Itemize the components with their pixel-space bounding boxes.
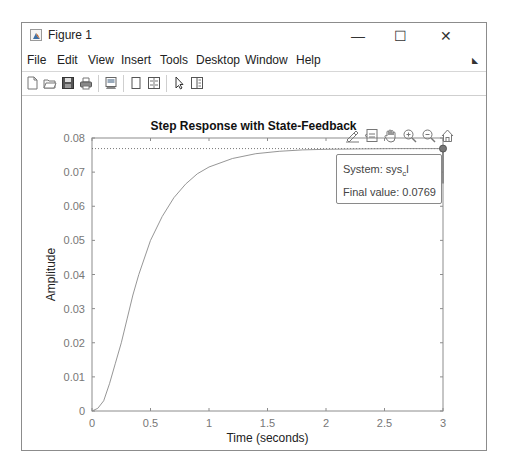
axes-toolbar <box>344 127 455 143</box>
menu-bar: File Edit View Insert Tools Desktop Wind… <box>22 49 486 72</box>
open-file-icon[interactable] <box>42 75 58 91</box>
close-button[interactable]: ✕ <box>428 25 464 47</box>
save-icon[interactable] <box>60 75 76 91</box>
x-tick-label: 1 <box>206 417 212 429</box>
y-tick-label: 0.06 <box>64 200 85 212</box>
edit-plot-pointer-icon[interactable] <box>171 75 187 91</box>
menu-tools[interactable]: Tools <box>160 53 188 67</box>
step-response-plot[interactable]: 00.511.522.5300.010.020.030.040.050.060.… <box>22 96 486 451</box>
zoom-out-icon[interactable] <box>420 127 436 143</box>
property-inspector-icon[interactable] <box>189 75 205 91</box>
x-tick-label: 2 <box>323 417 329 429</box>
toolbar-separator <box>166 75 167 92</box>
zoom-in-icon[interactable] <box>401 127 417 143</box>
matlab-figure-icon <box>30 29 42 41</box>
y-tick-label: 0.04 <box>64 269 85 281</box>
datatip-marker <box>440 145 447 152</box>
minimize-button[interactable]: — <box>340 25 376 47</box>
datatip[interactable]: System: syscl Final value: 0.0769 <box>336 154 442 204</box>
x-tick-label: 0 <box>89 417 95 429</box>
menu-view[interactable]: View <box>88 53 114 67</box>
window-title: Figure 1 <box>48 28 92 42</box>
new-figure-icon[interactable] <box>24 75 40 91</box>
chart-title: Step Response with State-Feedback <box>150 119 356 133</box>
figure-window: Figure 1 — ☐ ✕ File Edit View Insert Too… <box>21 22 487 451</box>
y-tick-label: 0.03 <box>64 303 85 315</box>
menu-help[interactable]: Help <box>296 53 321 67</box>
toolbar-separator <box>98 75 99 92</box>
hide-plot-tools-icon[interactable] <box>128 75 144 91</box>
datatip-system: System: syscl <box>343 160 441 183</box>
home-restore-view-icon[interactable] <box>439 127 455 143</box>
figure-toolbar <box>22 72 486 96</box>
menu-file[interactable]: File <box>27 53 46 67</box>
datatip-system-suffix: l <box>406 163 408 175</box>
x-tick-label: 1.5 <box>260 417 275 429</box>
y-axis-label: Amplitude <box>44 248 58 302</box>
menu-insert[interactable]: Insert <box>121 53 151 67</box>
link-plot-icon[interactable] <box>103 75 119 91</box>
toolbar-separator <box>123 75 124 92</box>
x-tick-label: 2.5 <box>377 417 392 429</box>
brush-icon[interactable] <box>344 127 360 143</box>
figure-canvas[interactable]: 00.511.522.5300.010.020.030.040.050.060.… <box>22 96 486 450</box>
data-tips-icon[interactable] <box>363 127 379 143</box>
x-axis-label: Time (seconds) <box>226 431 308 445</box>
y-tick-label: 0.07 <box>64 166 85 178</box>
datatip-system-label: System: sys <box>343 163 402 175</box>
y-tick-label: 0.01 <box>64 371 85 383</box>
dock-arrow-icon[interactable]: ◣ <box>472 56 478 65</box>
maximize-button[interactable]: ☐ <box>382 25 418 47</box>
y-tick-label: 0 <box>79 405 85 417</box>
title-bar[interactable]: Figure 1 — ☐ ✕ <box>22 23 486 49</box>
show-plot-tools-icon[interactable] <box>146 75 162 91</box>
datatip-final-value: Final value: 0.0769 <box>343 183 441 202</box>
menu-edit[interactable]: Edit <box>57 53 78 67</box>
x-tick-label: 0.5 <box>143 417 158 429</box>
print-icon[interactable] <box>78 75 94 91</box>
y-tick-label: 0.08 <box>64 132 85 144</box>
pan-hand-icon[interactable] <box>382 127 398 143</box>
y-tick-label: 0.02 <box>64 337 85 349</box>
menu-desktop[interactable]: Desktop <box>196 53 240 67</box>
menu-window[interactable]: Window <box>245 53 288 67</box>
y-tick-label: 0.05 <box>64 234 85 246</box>
x-tick-label: 3 <box>440 417 446 429</box>
